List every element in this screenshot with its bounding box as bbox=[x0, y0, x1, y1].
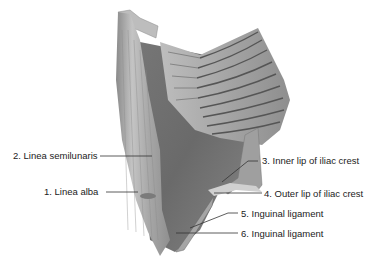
label-inguinal-ligament-5: 5. Inguinal ligament bbox=[241, 208, 323, 219]
label-inguinal-ligament-6: 6. Inguinal ligament bbox=[241, 228, 323, 239]
label-outer-lip-iliac-crest: 4. Outer lip of iliac crest bbox=[264, 188, 363, 199]
label-linea-alba: 1. Linea alba bbox=[44, 186, 98, 197]
abdominal-wall-illustration bbox=[0, 0, 381, 271]
label-inner-lip-iliac-crest: 3. Inner lip of iliac crest bbox=[262, 155, 359, 166]
tendinous-intersection bbox=[140, 193, 156, 199]
label-linea-semilunaris: 2. Linea semilunaris bbox=[13, 150, 98, 161]
